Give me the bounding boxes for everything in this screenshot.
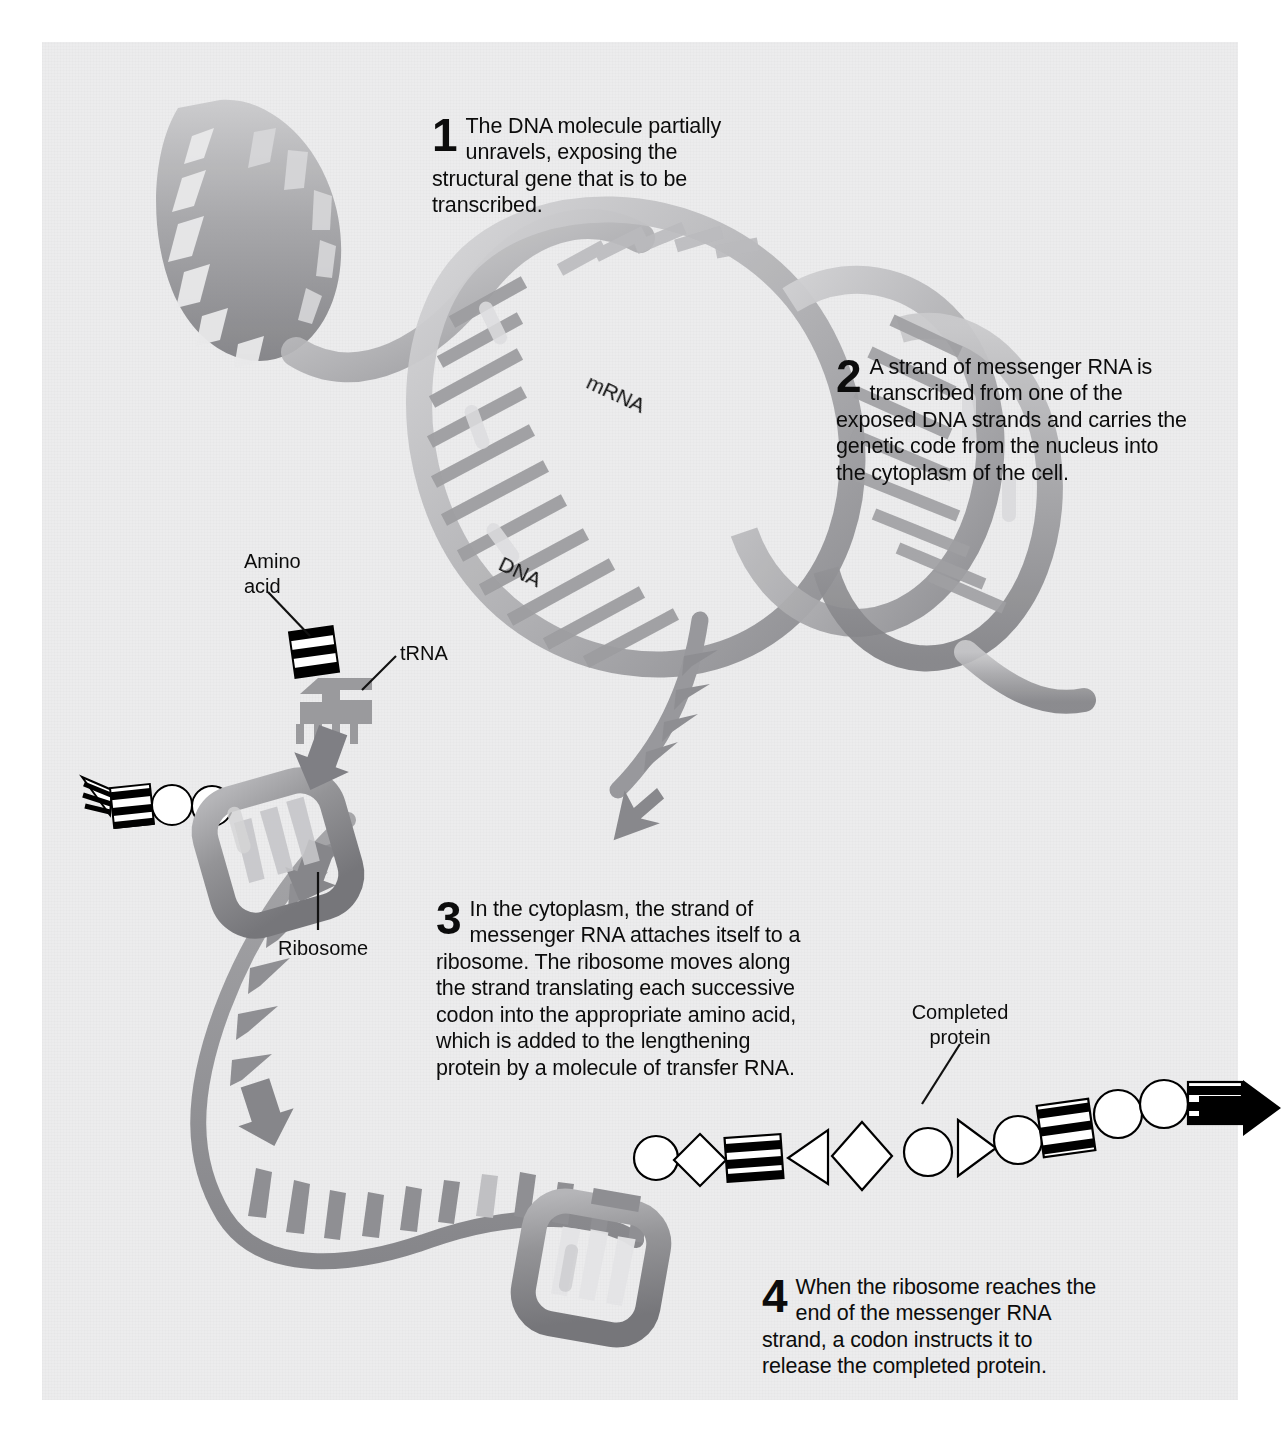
label-completed-protein: Completed protein xyxy=(900,1000,1020,1050)
step-text-4: When the ribosome reaches the end of the… xyxy=(762,1275,1096,1379)
trna-molecule xyxy=(268,592,396,744)
step-number-2: 2 xyxy=(836,356,861,396)
step-text-2: A strand of messenger RNA is transcribed… xyxy=(836,355,1187,485)
step-text-1: The DNA molecule partially unravels, exp… xyxy=(432,114,721,218)
step-number-3: 3 xyxy=(436,898,461,938)
strand-direction-arrow xyxy=(227,1074,303,1155)
completed-protein-leader-line xyxy=(922,1044,960,1104)
label-amino-acid: Amino acid xyxy=(244,549,301,599)
callout-step-1: 1The DNA molecule partially unravels, ex… xyxy=(432,86,762,219)
helix-turn-left xyxy=(156,100,341,368)
step-number-4: 4 xyxy=(762,1276,787,1316)
step-text-3: In the cytoplasm, the strand of messenge… xyxy=(436,897,800,1080)
label-ribosome: Ribosome xyxy=(278,936,368,961)
callout-step-4: 4When the ribosome reaches the end of th… xyxy=(762,1247,1102,1380)
figure-page: 1The DNA molecule partially unravels, ex… xyxy=(0,0,1286,1443)
amino-acid-block xyxy=(289,626,339,678)
callout-step-3: 3In the cytoplasm, the strand of messeng… xyxy=(436,869,804,1081)
ribosome-lower xyxy=(518,1188,664,1340)
step-number-1: 1 xyxy=(432,115,457,155)
completed-protein-chain xyxy=(634,1080,1242,1190)
trna-leader-line xyxy=(362,656,396,690)
label-trna: tRNA xyxy=(400,641,448,666)
callout-step-2: 2A strand of messenger RNA is transcribe… xyxy=(836,327,1188,486)
